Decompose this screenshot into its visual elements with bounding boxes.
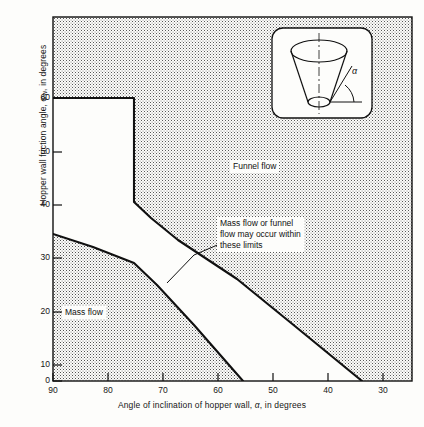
y-axis-title: Hopper wall friction angle, φw, in degre… [38,0,49,250]
x-axis-title: Angle of inclination of hopper wall, α, … [0,400,424,410]
y-axis-title-post: , in degrees [38,45,48,91]
y-tick-30: 30 [28,252,50,262]
mass-flow-label: Mass flow [62,306,106,319]
funnel-flow-label: Funnel flow [230,160,279,173]
x-tick-40: 40 [316,385,340,395]
x-tick-30: 30 [371,385,395,395]
x-tick-90: 90 [41,385,65,395]
x-tick-50: 50 [261,385,285,395]
transition-band-line-3: these limits [220,240,301,251]
x-axis-title-pre: Angle of inclination of hopper wall, [118,400,255,410]
transition-band-line-1: Mass flow or funnel [220,218,301,229]
transition-band-line-2: flow may occur within [220,229,301,240]
y-tick-20: 20 [28,306,50,316]
y-tick-10: 10 [28,359,50,369]
transition-band-label: Mass flow or funnel flow may occur withi… [217,217,304,252]
alpha-symbol-inset: α [352,66,357,76]
y-axis-title-symbol: φ [38,96,48,102]
x-tick-80: 80 [96,385,120,395]
x-tick-70: 70 [151,385,175,395]
x-tick-60: 60 [206,385,230,395]
y-tick-0: 0 [28,375,50,385]
y-axis-title-pre: Hopper wall friction angle, [38,101,48,205]
hopper-flow-design-chart: α Funnel flow Mass flow Mass flow or fun… [0,0,424,427]
plot-area [0,0,424,427]
y-axis-title-subscript: w [41,91,48,96]
x-axis-title-post: , in degrees [260,400,306,410]
